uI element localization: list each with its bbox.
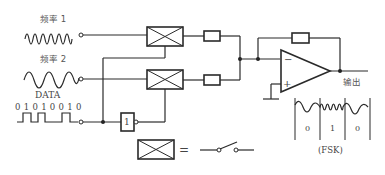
freq2-label: 频率 2 bbox=[40, 54, 66, 64]
fsk-bit-0: 0 bbox=[305, 124, 310, 133]
output-junction bbox=[338, 69, 342, 73]
freq1-label: 频率 1 bbox=[40, 14, 66, 24]
fsk-bit-2: 0 bbox=[355, 124, 360, 133]
inverter-bubble bbox=[134, 120, 138, 124]
switch-legend: = bbox=[138, 140, 254, 159]
output-label: 输出 bbox=[343, 77, 361, 87]
resistor-2 bbox=[204, 75, 220, 85]
data-bits-label: 0 1 0 1 0 0 1 0 bbox=[15, 102, 82, 112]
freq2-terminal bbox=[79, 77, 83, 81]
legend-equals: = bbox=[179, 143, 189, 157]
feedback-resistor bbox=[292, 33, 309, 43]
data-label: DATA bbox=[35, 90, 61, 100]
fsk-modulator-schematic: 频率 1 频率 2 DATA 0 1 0 1 0 0 1 0 1 bbox=[0, 0, 385, 175]
data-terminal bbox=[79, 120, 83, 124]
fsk-waveform bbox=[295, 98, 370, 140]
analog-switch-1 bbox=[147, 27, 183, 46]
freq1-terminal bbox=[79, 33, 83, 37]
op-amp: − + bbox=[281, 50, 330, 92]
inverter-label: 1 bbox=[124, 117, 130, 127]
freq1-waveform bbox=[25, 34, 72, 44]
data-waveform bbox=[17, 113, 78, 122]
opamp-minus: − bbox=[284, 54, 292, 65]
fsk-bit-1: 1 bbox=[330, 124, 335, 133]
analog-switch-2 bbox=[147, 70, 183, 89]
fsk-caption: (FSK) bbox=[318, 145, 343, 155]
legend-switch-blade bbox=[220, 142, 237, 149]
resistor-1 bbox=[204, 31, 220, 41]
opamp-plus: + bbox=[283, 78, 291, 89]
freq2-waveform bbox=[24, 72, 79, 88]
